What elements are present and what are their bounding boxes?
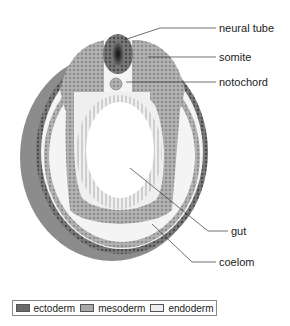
label-notochord: notochord: [219, 76, 268, 88]
legend-item-ectoderm: ectoderm: [16, 303, 76, 314]
gut-lumen: [86, 102, 154, 198]
label-somite: somite: [219, 51, 251, 63]
notochord-shape: [110, 78, 122, 90]
legend-label: endoderm: [168, 303, 213, 314]
legend-item-endoderm: endoderm: [150, 303, 213, 314]
label-coelom: coelom: [219, 256, 254, 268]
legend-item-mesoderm: mesoderm: [80, 303, 145, 314]
label-gut: gut: [231, 225, 246, 237]
embryo-cross-section-diagram: neural tube somite notochord gut coelom: [0, 0, 290, 326]
endoderm-swatch-icon: [150, 304, 164, 312]
legend: ectoderm mesoderm endoderm: [12, 300, 217, 316]
label-neural-tube: neural tube: [219, 22, 274, 34]
embryo-illustration: [0, 0, 290, 326]
legend-label: ectoderm: [34, 303, 76, 314]
mesoderm-swatch-icon: [80, 304, 94, 312]
ectoderm-swatch-icon: [16, 304, 30, 312]
legend-label: mesoderm: [98, 303, 145, 314]
